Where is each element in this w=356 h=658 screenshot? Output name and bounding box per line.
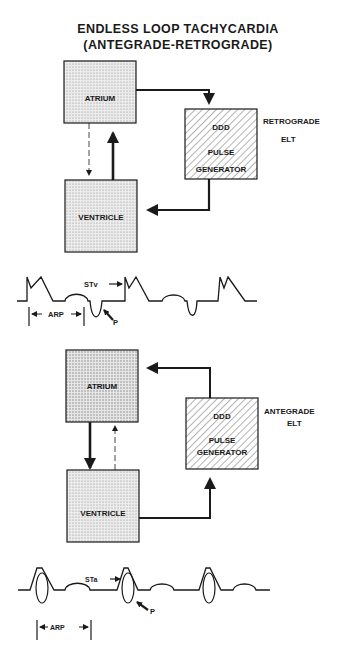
top-generator-line3: GENERATOR xyxy=(196,165,247,174)
top-side-label-line1: RETROGRADE xyxy=(263,117,321,126)
bottom-generator-line1: DDD xyxy=(213,412,231,421)
top-generator-line2: PULSE xyxy=(208,148,235,157)
bottom-ecg-arp-label: ARP xyxy=(50,624,65,631)
bottom-pulse-generator-box: DDD PULSE GENERATOR xyxy=(186,398,258,469)
bottom-ventricle-label: VENTRICLE xyxy=(80,509,126,518)
bottom-ventricle-box: VENTRICLE xyxy=(67,470,139,542)
top-ecg-arp-label: ARP xyxy=(48,310,64,319)
top-panel: ATRIUM VENTRICLE DDD PULSE GENERATOR RET… xyxy=(17,61,321,327)
bottom-p-loop-3 xyxy=(203,573,215,603)
top-generator-line1: DDD xyxy=(212,123,230,132)
top-atrium-label: ATRIUM xyxy=(85,94,116,103)
diagram-canvas: ATRIUM VENTRICLE DDD PULSE GENERATOR RET… xyxy=(0,0,356,658)
bottom-p-loop-2 xyxy=(122,573,134,603)
bottom-p-loop-1 xyxy=(36,573,48,603)
top-ventricle-label: VENTRICLE xyxy=(78,213,124,222)
bottom-generator-line2: PULSE xyxy=(209,436,236,445)
bottom-side-label-line2: ELT xyxy=(287,419,302,428)
top-ecg-p-label: P xyxy=(113,318,118,327)
bottom-ventricle-to-generator-arrow xyxy=(139,479,210,518)
top-side-label-line2: ELT xyxy=(281,135,296,144)
bottom-panel: ATRIUM VENTRICLE DDD PULSE GENERATOR ANT… xyxy=(18,350,315,640)
bottom-ecg-trace xyxy=(18,568,270,590)
top-ecg-st-label: STv xyxy=(84,280,99,289)
bottom-atrium-box: ATRIUM xyxy=(66,350,138,422)
bottom-ecg-st-label: STa xyxy=(85,576,97,583)
bottom-ecg-p-label: P xyxy=(150,607,155,616)
bottom-generator-line3: GENERATOR xyxy=(197,448,248,457)
bottom-generator-to-atrium-arrow xyxy=(148,368,210,398)
top-atrium-to-generator-arrow xyxy=(136,90,209,103)
bottom-atrium-label: ATRIUM xyxy=(87,382,118,391)
top-pulse-generator-box: DDD PULSE GENERATOR xyxy=(185,109,257,179)
top-atrium-box: ATRIUM xyxy=(64,61,136,123)
bottom-p-arrow xyxy=(137,602,148,610)
top-ventricle-box: VENTRICLE xyxy=(65,180,137,252)
top-p-arrow xyxy=(104,310,113,320)
bottom-side-label-line1: ANTEGRADE xyxy=(264,407,315,416)
top-generator-to-ventricle-arrow xyxy=(148,179,209,210)
